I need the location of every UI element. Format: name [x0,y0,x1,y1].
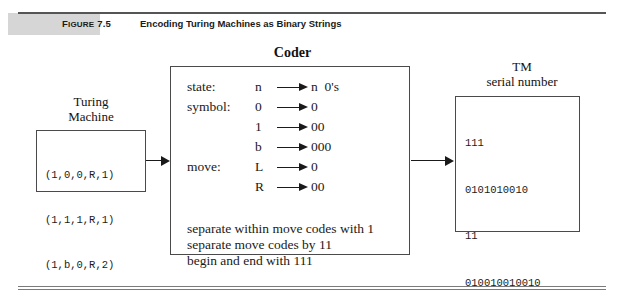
arrow-shaft [411,160,447,161]
footer-rule-bottom [18,289,606,290]
serial-number-caption-line2: serial number [452,74,592,89]
figure-label: FIGURE 7.5 [62,18,111,29]
coder-rule-row: b 000 [187,137,399,157]
arrow-right-icon [277,101,311,114]
arrow-right-icon [277,141,311,154]
turing-machine-box: (1,0,0,R,1) (1,1,1,R,1) (1,b,0,R,2) [36,130,146,192]
coder-rule-target: 0 [311,159,399,175]
coder-rule-source: n [255,79,277,95]
turing-machine-caption-line2: Machine [36,109,146,124]
coder-note: separate within move codes with 1 [187,221,402,237]
coder-note: separate move codes by 11 [187,237,402,253]
turing-machine-transition-list: (1,0,0,R,1) (1,1,1,R,1) (1,b,0,R,2) [45,138,114,299]
coder-rule-row: symbol: 0 0 [187,97,399,117]
serial-number-caption: TM serial number [452,59,592,89]
arrow-right-icon [277,121,311,134]
coder-rule-row: 1 00 [187,117,399,137]
figure-label-number: 7.5 [97,18,111,29]
coder-rule-label: move: [187,159,255,175]
arrow-head [445,156,454,166]
binary-line: 11 [465,229,547,245]
serial-number-binary-list: 111 0101010010 11 010010010010 11 010001… [465,105,547,299]
coder-rule-target: 0 [311,99,399,115]
header-horizontal-rule [18,12,606,14]
arrow-head [161,156,170,166]
turing-machine-caption-line1: Turing [36,94,146,109]
binary-line: 111 [465,136,547,152]
coder-notes-list: separate within move codes with 1 separa… [187,221,402,269]
serial-number-caption-line1: TM [452,59,592,74]
coder-rule-target: 00 [311,179,399,195]
coder-rule-row: state: n n 0's [187,77,399,97]
coder-caption: Coder [185,45,400,60]
coder-note: begin and end with 111 [187,253,402,269]
coder-rule-target: n 0's [311,79,399,95]
coder-rules-list: state: n n 0's symbol: 0 0 1 00 b 000 mo… [187,77,399,197]
footer-rule-top [18,286,606,287]
coder-rule-row: move: L 0 [187,157,399,177]
transition-tuple: (1,b,0,R,2) [45,258,114,273]
coder-box: state: n n 0's symbol: 0 0 1 00 b 000 mo… [170,66,410,255]
figure-title: Encoding Turing Machines as Binary Strin… [140,18,341,29]
turing-machine-caption: Turing Machine [36,94,146,124]
transition-tuple: (1,1,1,R,1) [45,213,114,228]
coder-rule-source: b [255,139,277,155]
coder-rule-label: state: [187,79,255,95]
coder-rule-row: R 00 [187,177,399,197]
coder-rule-target: 00 [311,119,399,135]
arrow-right-icon [277,161,311,174]
figure-label-word-rest: IGURE [68,20,94,29]
arrow-right-icon-tm-to-coder [146,156,171,166]
coder-rule-source: 0 [255,99,277,115]
coder-rule-target: 000 [311,139,399,155]
coder-rule-source: L [255,159,277,175]
arrow-right-icon [277,81,311,94]
coder-rule-label: symbol: [187,99,255,115]
serial-number-box: 111 0101010010 11 010010010010 11 010001… [455,96,580,232]
coder-rule-source: 1 [255,119,277,135]
arrow-right-icon [277,181,311,194]
arrow-right-icon-coder-to-serial [411,156,456,166]
transition-tuple: (1,0,0,R,1) [45,168,114,183]
coder-rule-source: R [255,179,277,195]
figure-header: FIGURE 7.5 Encoding Turing Machines as B… [0,9,620,35]
binary-line: 0101010010 [465,183,547,199]
